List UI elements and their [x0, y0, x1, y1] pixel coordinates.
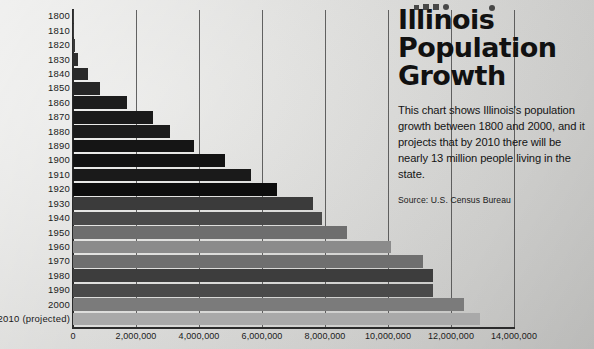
bar-1810 — [73, 24, 74, 37]
bar-1910 — [73, 169, 251, 182]
bar-1860 — [73, 96, 127, 109]
y-axis-label-1990: 1990 — [48, 284, 70, 295]
y-axis-label-1980: 1980 — [48, 270, 70, 281]
bar-row — [73, 269, 514, 282]
x-axis-tick-labels: 02,000,0004,000,0006,000,0008,000,00010,… — [0, 331, 594, 347]
y-axis-label-1950: 1950 — [48, 227, 70, 238]
x-axis-line — [72, 327, 515, 329]
chart-source: Source: U.S. Census Bureau — [398, 195, 590, 205]
y-axis-label-1960: 1960 — [48, 241, 70, 252]
bar-row — [73, 298, 514, 311]
y-axis-label-1810: 1810 — [48, 25, 70, 36]
x-axis-label-4000000: 4,000,000 — [179, 331, 220, 341]
y-axis-label-2010: 2010 (projected) — [0, 313, 70, 324]
y-axis-year-labels: 1800181018201830184018501860187018801890… — [0, 10, 70, 327]
print-speck-icon — [414, 5, 419, 10]
bar-row — [73, 226, 514, 239]
bar-2010 — [73, 313, 480, 326]
y-axis-label-1930: 1930 — [48, 198, 70, 209]
bar-1980 — [73, 269, 433, 282]
bar-1900 — [73, 154, 225, 167]
print-speck-icon — [443, 4, 449, 10]
x-axis-label-0: 0 — [70, 331, 75, 341]
y-axis-label-1900: 1900 — [48, 154, 70, 165]
print-speck-icon — [423, 4, 429, 10]
y-axis-label-1940: 1940 — [48, 212, 70, 223]
y-axis-label-1850: 1850 — [48, 82, 70, 93]
bar-1880 — [73, 125, 170, 138]
bar-row — [73, 255, 514, 268]
bar-1800 — [73, 10, 74, 23]
y-axis-label-1830: 1830 — [48, 54, 70, 65]
page-title-line-2: Growth — [398, 62, 590, 90]
bar-1890 — [73, 140, 194, 153]
bar-2000 — [73, 298, 464, 311]
y-axis-label-1910: 1910 — [48, 169, 70, 180]
bar-1960 — [73, 241, 391, 254]
bar-1970 — [73, 255, 423, 268]
bar-1930 — [73, 197, 313, 210]
bar-1820 — [73, 39, 75, 52]
x-axis-label-10000000: 10,000,000 — [365, 331, 411, 341]
bar-row — [73, 241, 514, 254]
y-axis-label-1840: 1840 — [48, 68, 70, 79]
bar-row — [73, 284, 514, 297]
bar-1850 — [73, 82, 100, 95]
bar-chart: 1800181018201830184018501860187018801890… — [0, 0, 382, 349]
x-axis-label-6000000: 6,000,000 — [242, 331, 283, 341]
chart-description: This chart shows Illinois's population g… — [398, 103, 588, 183]
y-axis-label-1970: 1970 — [48, 255, 70, 266]
y-axis-label-1920: 1920 — [48, 183, 70, 194]
y-axis-label-1890: 1890 — [48, 140, 70, 151]
y-axis-label-2000: 2000 — [48, 299, 70, 310]
bar-1840 — [73, 68, 88, 81]
bar-1940 — [73, 212, 322, 225]
poster-page: 1800181018201830184018501860187018801890… — [0, 0, 594, 349]
x-axis-label-8000000: 8,000,000 — [305, 331, 346, 341]
y-axis-label-1870: 1870 — [48, 111, 70, 122]
y-axis-label-1800: 1800 — [48, 10, 70, 21]
bar-1950 — [73, 226, 347, 239]
x-axis-label-14000000: 14,000,000 — [491, 331, 537, 341]
page-title: IllinoisPopulationGrowth — [398, 6, 590, 89]
print-speck-icon — [433, 4, 439, 10]
bar-1920 — [73, 183, 277, 196]
x-axis-label-12000000: 12,000,000 — [428, 331, 474, 341]
y-axis-label-1860: 1860 — [48, 97, 70, 108]
text-panel: IllinoisPopulationGrowth This chart show… — [398, 6, 590, 205]
bar-1870 — [73, 111, 153, 124]
x-axis-label-2000000: 2,000,000 — [116, 331, 157, 341]
bar-row — [73, 212, 514, 225]
bar-1990 — [73, 284, 433, 297]
y-axis-label-1880: 1880 — [48, 126, 70, 137]
bar-1830 — [73, 53, 78, 66]
page-title-line-1: Population — [398, 34, 590, 62]
y-axis-label-1820: 1820 — [48, 39, 70, 50]
bar-row — [73, 313, 514, 326]
print-speck-icon — [489, 5, 495, 11]
